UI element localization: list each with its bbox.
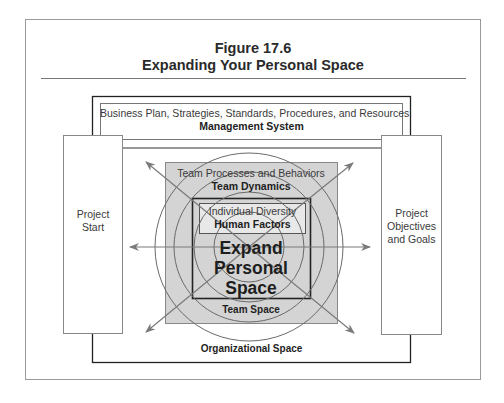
team-dynamics-label: Team Dynamics [165, 180, 337, 192]
expand-personal-space-label: Expand Personal Space [192, 238, 310, 298]
management-system-label: Management System [100, 120, 403, 132]
team-dynamics-subtitle: Team Processes and Behaviors [165, 167, 337, 179]
management-system-subtitle: Business Plan, Strategies, Standards, Pr… [100, 107, 403, 119]
project-objectives-label: Project Objectives and Goals [381, 207, 442, 246]
human-factors-label: Human Factors [199, 218, 306, 230]
project-start-label: Project Start [63, 208, 123, 234]
project-start-box [64, 136, 123, 334]
organizational-space-label: Organizational Space [92, 343, 411, 354]
team-space-label: Team Space [165, 304, 337, 315]
human-factors-subtitle: Individual Diversity [199, 205, 306, 217]
